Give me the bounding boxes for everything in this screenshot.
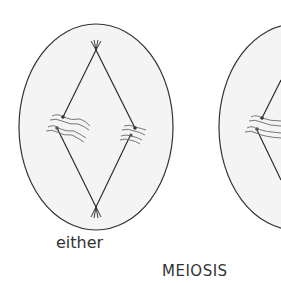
cell-membrane [19, 24, 173, 230]
left-cell [19, 24, 173, 230]
caption-either: either [56, 233, 103, 252]
meiosis-diagram [0, 0, 281, 283]
right-cell [219, 24, 281, 230]
caption-meiosis: MEIOSIS [162, 262, 228, 280]
